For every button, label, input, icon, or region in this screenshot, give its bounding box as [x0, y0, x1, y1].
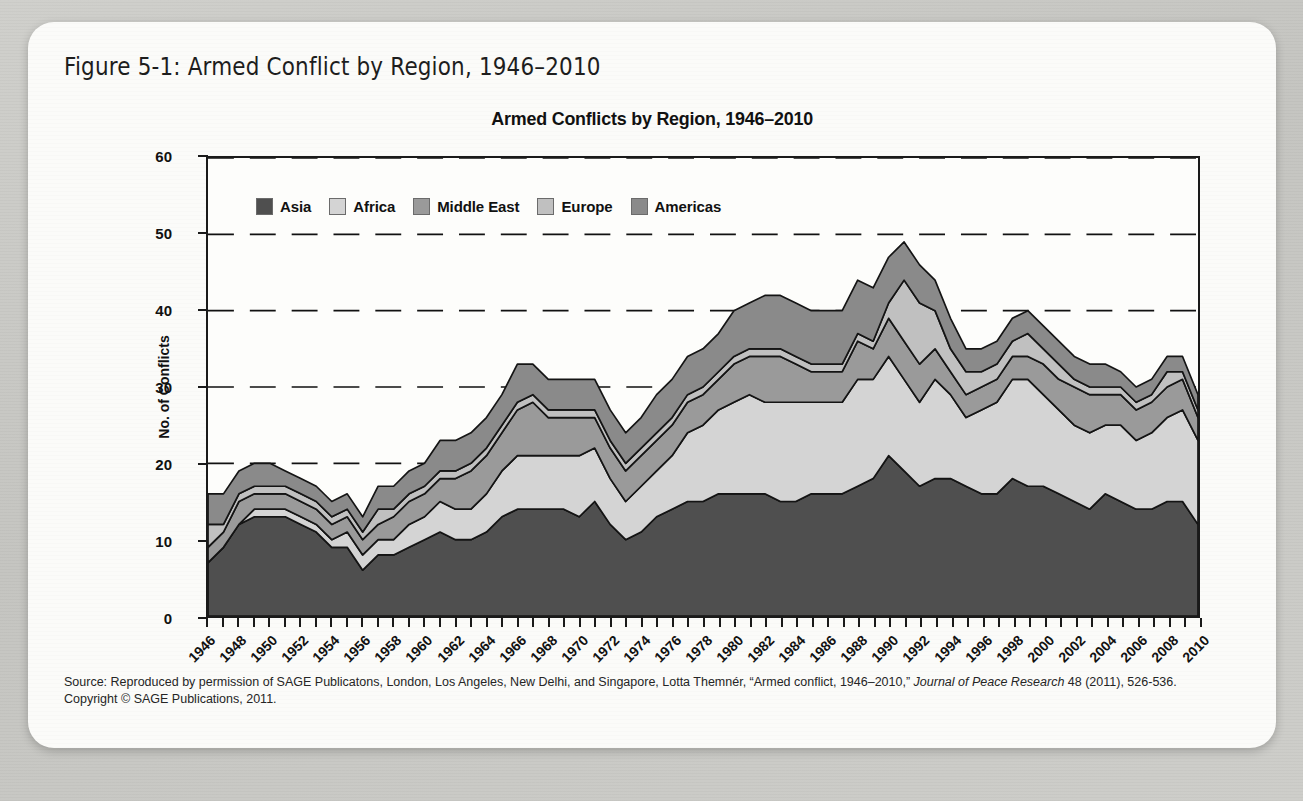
figure-caption: Figure 5-1: Armed Conflict by Region, 19…: [64, 52, 601, 81]
x-tick-mark: [253, 618, 255, 627]
x-tick-mark: [1014, 618, 1016, 627]
x-tick-mark: [781, 618, 783, 627]
x-tick-label: 1996: [962, 632, 995, 665]
x-tick-mark: [579, 618, 581, 627]
x-tick-mark: [952, 618, 954, 627]
legend-swatch-icon: [329, 198, 346, 215]
x-tick-label: 1948: [216, 632, 249, 665]
x-tick-mark: [1029, 618, 1031, 627]
source-journal-title: Journal of Peace Research: [914, 675, 1065, 689]
x-tick-label: 1950: [247, 632, 280, 665]
x-tick-mark: [1045, 618, 1047, 627]
legend-item-asia[interactable]: Asia: [256, 198, 311, 215]
chart-legend: AsiaAfricaMiddle EastEuropeAmericas: [256, 198, 721, 215]
x-tick-mark: [672, 618, 674, 627]
x-tick-mark: [423, 618, 425, 627]
x-tick-mark: [346, 618, 348, 627]
chart-plot-wrapper: No. of Conflicts 0102030405060 AsiaAfric…: [178, 156, 1200, 618]
x-tick-mark: [548, 618, 550, 627]
x-tick-label: 1952: [278, 632, 311, 665]
x-tick-label: 2002: [1055, 632, 1088, 665]
x-tick-mark: [408, 618, 410, 627]
x-tick-label: 2008: [1148, 632, 1181, 665]
x-tick-mark: [1060, 618, 1062, 627]
x-tick-label: 1998: [993, 632, 1026, 665]
x-tick-mark: [1153, 618, 1155, 627]
x-tick-mark: [719, 618, 721, 627]
x-tick-mark: [983, 618, 985, 627]
x-tick-mark: [486, 618, 488, 627]
legend-item-americas[interactable]: Americas: [631, 198, 722, 215]
x-tick-label: 2006: [1117, 632, 1150, 665]
x-tick-label: 1974: [620, 632, 653, 665]
x-tick-mark: [1184, 618, 1186, 627]
y-tick-label: 50: [132, 225, 172, 242]
x-tick-mark: [796, 618, 798, 627]
x-tick-mark: [812, 618, 814, 627]
legend-item-middle-east[interactable]: Middle East: [413, 198, 519, 215]
x-tick-label: 1984: [775, 632, 808, 665]
y-tick-label: 30: [132, 379, 172, 396]
x-tick-label: 1972: [589, 632, 622, 665]
x-tick-mark: [439, 618, 441, 627]
x-tick-label: 1956: [340, 632, 373, 665]
x-tick-label: 1958: [372, 632, 405, 665]
plot-area: AsiaAfricaMiddle EastEuropeAmericas: [206, 156, 1200, 618]
x-tick-mark: [625, 618, 627, 627]
x-tick-label: 1976: [651, 632, 684, 665]
x-tick-mark: [750, 618, 752, 627]
legend-item-africa[interactable]: Africa: [329, 198, 395, 215]
x-tick-label: 1968: [527, 632, 560, 665]
x-tick-label: 1982: [744, 632, 777, 665]
source-line-1: Source: Reproduced by permission of SAGE…: [64, 674, 1244, 691]
x-tick-mark: [315, 618, 317, 627]
x-tick-mark: [641, 618, 643, 627]
legend-label: Africa: [353, 198, 395, 215]
x-tick-mark: [237, 618, 239, 627]
x-tick-mark: [1138, 618, 1140, 627]
x-tick-mark: [377, 618, 379, 627]
x-tick-mark: [610, 618, 612, 627]
x-tick-label: 1980: [713, 632, 746, 665]
x-tick-mark: [687, 618, 689, 627]
x-tick-mark: [361, 618, 363, 627]
x-tick-mark: [703, 618, 705, 627]
x-tick-mark: [299, 618, 301, 627]
x-tick-label: 1960: [403, 632, 436, 665]
legend-label: Americas: [655, 198, 722, 215]
x-tick-mark: [858, 618, 860, 627]
x-tick-label: 1994: [931, 632, 964, 665]
x-tick-label: 1978: [682, 632, 715, 665]
x-tick-mark: [268, 618, 270, 627]
x-tick-mark: [1091, 618, 1093, 627]
x-tick-mark: [330, 618, 332, 627]
x-tick-label: 2000: [1024, 632, 1057, 665]
x-tick-label: 1962: [434, 632, 467, 665]
x-tick-label: 2004: [1086, 632, 1119, 665]
x-tick-mark: [284, 618, 286, 627]
x-tick-mark: [936, 618, 938, 627]
y-tick-label: 20: [132, 456, 172, 473]
x-tick-label: 2010: [1179, 632, 1212, 665]
chart-title: Armed Conflicts by Region, 1946–2010: [28, 108, 1276, 130]
chart-title-text: Armed Conflicts by Region, 1946–2010: [491, 108, 813, 130]
x-tick-mark: [874, 618, 876, 627]
legend-item-europe[interactable]: Europe: [537, 198, 612, 215]
x-tick-mark: [517, 618, 519, 627]
x-tick-mark: [594, 618, 596, 627]
x-tick-mark: [998, 618, 1000, 627]
x-tick-label: 1964: [465, 632, 498, 665]
source-note: Source: Reproduced by permission of SAGE…: [64, 674, 1244, 709]
x-tick-label: 1986: [806, 632, 839, 665]
legend-swatch-icon: [537, 198, 554, 215]
x-tick-label: 1946: [185, 632, 218, 665]
x-tick-label: 1954: [309, 632, 342, 665]
legend-label: Europe: [561, 198, 612, 215]
y-tick-label: 0: [132, 610, 172, 627]
x-tick-label: 1970: [558, 632, 591, 665]
legend-swatch-icon: [256, 198, 273, 215]
x-tick-mark: [532, 618, 534, 627]
x-tick-mark: [1200, 618, 1202, 627]
x-tick-label: 1990: [869, 632, 902, 665]
y-tick-label: 10: [132, 533, 172, 550]
